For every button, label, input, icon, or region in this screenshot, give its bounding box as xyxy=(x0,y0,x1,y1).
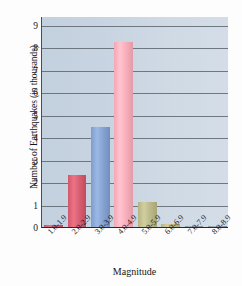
y-tick-label: 3 xyxy=(24,156,38,165)
y-tick-label: 9 xyxy=(24,21,38,30)
x-axis-tick-labels: 1.0-1.92.0-2.93.0-3.94.0-4.95.0-5.96.0-6… xyxy=(41,230,228,264)
earthquake-magnitude-bar-chart: Number of Earthquakes (in thousands) 012… xyxy=(0,0,242,286)
y-tick-label: 1 xyxy=(24,201,38,210)
bar-fill xyxy=(91,127,110,227)
y-tick-label: 6 xyxy=(24,89,38,98)
bar xyxy=(91,127,110,227)
y-tick-label: 8 xyxy=(24,44,38,53)
bar-fill xyxy=(114,42,133,227)
y-axis-tick-labels: 0123456789 xyxy=(24,17,38,228)
bar-series xyxy=(42,17,228,227)
y-tick-label: 5 xyxy=(24,111,38,120)
y-tick-label: 2 xyxy=(24,179,38,188)
plot-area xyxy=(41,17,228,228)
y-tick-label: 0 xyxy=(24,224,38,233)
y-tick-label: 7 xyxy=(24,66,38,75)
bar xyxy=(114,42,133,227)
y-tick-label: 4 xyxy=(24,134,38,143)
x-axis-label: Magnitude xyxy=(41,266,228,277)
